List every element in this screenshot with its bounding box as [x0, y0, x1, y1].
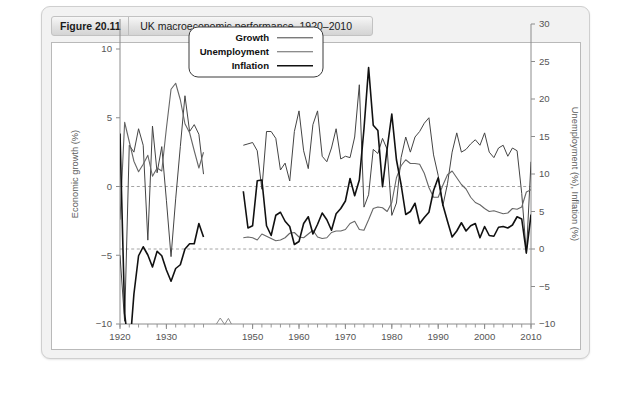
series-line-growth	[120, 96, 204, 322]
x-axis-tick-label: 2010	[520, 331, 541, 342]
series-line-unemployment	[243, 160, 531, 241]
series-line-inflation	[243, 68, 531, 253]
x-axis-tick-label: 1960	[288, 331, 309, 342]
legend-label-unemployment: Unemployment	[200, 46, 270, 57]
x-axis-tick-label: 1920	[109, 331, 130, 342]
right-axis-tick-label: 5	[539, 206, 544, 217]
left-axis-tick-label: 10	[101, 43, 112, 54]
right-axis-tick-label: 10	[539, 168, 550, 179]
x-axis-tick-label: 1980	[381, 331, 402, 342]
left-axis-tick-label: −10	[96, 318, 112, 329]
x-axis-tick-label: 2000	[474, 331, 495, 342]
macroeconomic-line-chart: 1050−5−10302520151050−5−1019201930195019…	[42, 7, 591, 360]
x-axis-tick-label: 1990	[428, 331, 449, 342]
right-axis-tick-label: −5	[539, 281, 550, 292]
right-axis-tick-label: 20	[539, 93, 550, 104]
legend-label-inflation: Inflation	[232, 60, 269, 71]
left-axis-tick-label: −5	[101, 250, 112, 261]
x-axis-tick-label: 1970	[335, 331, 356, 342]
right-axis-tick-label: 30	[539, 18, 550, 29]
series-line-growth	[243, 85, 531, 254]
right-axis-tick-label: 0	[539, 243, 544, 254]
right-axis-tick-label: 15	[539, 131, 550, 142]
left-axis-tick-label: 5	[107, 112, 112, 123]
right-axis-tick-label: −10	[539, 318, 555, 329]
x-axis-tick-label: 1930	[156, 331, 177, 342]
figure-panel: Figure 20.11 UK macroeconomic performanc…	[41, 6, 590, 359]
right-axis-tick-label: 25	[539, 56, 550, 67]
x-axis-tick-label: 1950	[242, 331, 263, 342]
legend-label-growth: Growth	[235, 32, 269, 43]
right-axis-title: Unemployment (%), Inflation (%)	[570, 107, 580, 241]
left-axis-title: Economic growth (%)	[70, 130, 80, 218]
left-axis-tick-label: 0	[107, 181, 112, 192]
